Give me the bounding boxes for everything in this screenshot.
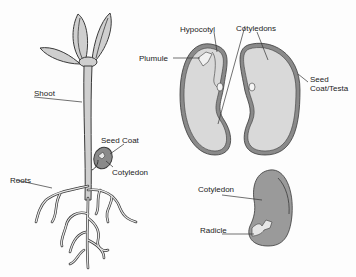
label-seed-coat: Seed Coat [101, 136, 139, 145]
seed-anatomy-diagram: Shoot Seed Coat Cotyledon Roots Hypocoty… [0, 0, 356, 277]
label-seed-coat-testa-2: Coat/Testa [310, 84, 348, 93]
label-seed-coat-testa-1: Seed [310, 75, 329, 84]
label-hypocotyl: Hypocotyl [180, 25, 215, 34]
label-cotyledon-seedling: Cotyledon [112, 168, 148, 177]
open-seed-illustration [180, 43, 300, 155]
label-radicle: Radicle [200, 226, 227, 235]
label-plumule: Plumule [139, 54, 168, 63]
label-cotyledons: Cotyledons [236, 24, 276, 33]
label-cotyledon: Cotyledon [198, 185, 234, 194]
label-roots: Roots [10, 176, 31, 185]
diagram-artwork [0, 0, 356, 277]
label-shoot: Shoot [34, 89, 55, 98]
single-cotyledon-illustration [249, 170, 292, 246]
